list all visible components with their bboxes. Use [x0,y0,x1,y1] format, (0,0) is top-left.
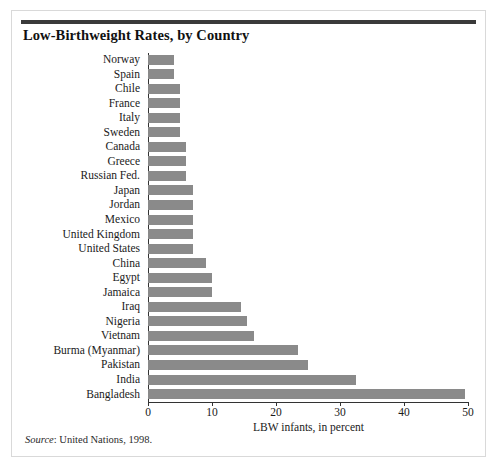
category-label: Nigeria [106,314,140,328]
source-label: Source [25,434,54,445]
category-label: United States [78,241,140,255]
bar-row: Iraq [148,300,468,315]
category-label: United Kingdom [62,227,140,241]
bar [148,258,206,268]
category-label: Iraq [121,299,140,313]
source-note: Source: United Nations, 1998. [25,434,152,445]
bar [148,84,180,94]
category-label: Greece [107,154,140,168]
bar-row: Bangladesh [148,388,468,403]
bar-row: Norway [148,53,468,68]
bar-row: China [148,257,468,272]
x-axis-tick-label: 10 [206,406,218,418]
bar-row: Japan [148,184,468,199]
plot-area: NorwaySpainChileFranceItalySwedenCanadaG… [148,53,468,402]
category-label: Norway [103,52,140,66]
x-axis-tick-label: 20 [270,406,282,418]
bar-row: Egypt [148,271,468,286]
bar-row: Greece [148,155,468,170]
bar-row: Nigeria [148,315,468,330]
category-label: Jordan [109,197,140,211]
bar-row: Sweden [148,126,468,141]
bar [148,244,193,254]
chart-title: Low-Birthweight Rates, by Country [23,27,249,44]
bar-row: Jamaica [148,286,468,301]
chart-figure: Low-Birthweight Rates, by Country Norway… [11,10,486,457]
x-axis-tick-label: 40 [398,406,410,418]
category-label: Vietnam [101,328,140,342]
category-label: Spain [114,67,140,81]
bar-row: Russian Fed. [148,169,468,184]
category-label: Russian Fed. [81,168,140,182]
x-axis-tick-label: 0 [145,406,151,418]
bar-row: Pakistan [148,358,468,373]
category-label: France [109,96,140,110]
bar-row: France [148,97,468,112]
bar [148,113,180,123]
x-axis-line [148,402,469,403]
bar [148,98,180,108]
bar [148,360,308,370]
category-label: Italy [119,110,140,124]
category-label: Bangladesh [86,387,140,401]
bar-row: Spain [148,68,468,83]
category-label: Japan [114,183,140,197]
category-label: Chile [115,81,140,95]
category-label: India [116,372,140,386]
bar [148,156,186,166]
bar [148,302,241,312]
bar [148,171,186,181]
category-label: Egypt [113,270,140,284]
category-label: Mexico [105,212,140,226]
bar-row: India [148,373,468,388]
x-axis-tick-label: 30 [334,406,346,418]
bar [148,287,212,297]
bar-row: Chile [148,82,468,97]
bar [148,69,174,79]
bar [148,273,212,283]
category-label: Jamaica [103,285,140,299]
bar-row: Vietnam [148,329,468,344]
bar [148,142,186,152]
bar [148,200,193,210]
bar [148,185,193,195]
x-axis-title: LBW infants, in percent [148,421,469,433]
bar [148,389,465,399]
bar [148,55,174,65]
category-label: China [113,256,140,270]
bar-row: Mexico [148,213,468,228]
bar [148,215,193,225]
bar [148,316,247,326]
bar [148,375,356,385]
title-rule [21,20,476,24]
bar-row: Burma (Myanmar) [148,344,468,359]
category-label: Sweden [104,125,140,139]
bar-row: United Kingdom [148,228,468,243]
x-axis-tick-label: 50 [462,406,474,418]
bar [148,127,180,137]
source-text: : United Nations, 1998. [54,434,152,445]
category-label: Pakistan [101,357,140,371]
bar [148,229,193,239]
bar [148,331,254,341]
bar-row: Italy [148,111,468,126]
category-label: Canada [106,139,140,153]
category-label: Burma (Myanmar) [53,343,140,357]
bar [148,345,298,355]
bar-row: United States [148,242,468,257]
bar-row: Canada [148,140,468,155]
bar-row: Jordan [148,198,468,213]
